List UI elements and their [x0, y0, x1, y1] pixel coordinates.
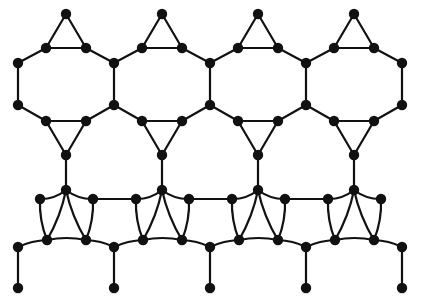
atom-quad-bottom-right-0	[81, 235, 91, 245]
atom-quad-shoulder-right-1	[184, 194, 194, 204]
atom-pendant-4	[397, 283, 407, 293]
atom-quad-bottom-left-3	[330, 235, 340, 245]
atom-tri-shoulder-left-3	[329, 116, 339, 126]
atom-tri-apex-2	[253, 150, 263, 160]
atom-tri-shoulder-right-3	[369, 116, 379, 126]
atom-quad-shoulder-right-3	[376, 194, 386, 204]
atom-cap-apex-3	[349, 9, 359, 19]
atom-pendant-0	[13, 283, 23, 293]
atom-tri-shoulder-left-2	[233, 116, 243, 126]
atom-terminal-1	[109, 242, 119, 252]
atom-quad-shoulder-left-0	[35, 194, 45, 204]
atom-cap-shoulder-right-0	[81, 43, 91, 53]
atom-quad-bottom-right-2	[273, 235, 283, 245]
atom-hex-lower-3	[301, 100, 311, 110]
atom-terminal-4	[397, 242, 407, 252]
atom-hex-upper-3	[301, 58, 311, 68]
atom-tri-shoulder-right-0	[81, 116, 91, 126]
atom-pendant-1	[109, 283, 119, 293]
atom-tri-apex-1	[157, 150, 167, 160]
atom-quad-shoulder-right-2	[280, 194, 290, 204]
atom-quad-bottom-right-3	[369, 235, 379, 245]
atom-cap-shoulder-left-3	[329, 43, 339, 53]
atom-quad-bottom-left-1	[138, 235, 148, 245]
atom-terminal-3	[301, 242, 311, 252]
atom-quad-top-1	[157, 185, 167, 195]
atom-cap-apex-0	[61, 9, 71, 19]
atom-hex-upper-0	[13, 58, 23, 68]
atom-terminal-2	[205, 242, 215, 252]
atom-tri-apex-3	[349, 150, 359, 160]
lattice-diagram: Molecular lattice network schematic	[0, 0, 423, 307]
atom-tri-shoulder-right-2	[273, 116, 283, 126]
atom-cap-shoulder-right-3	[369, 43, 379, 53]
atom-quad-bottom-left-2	[234, 235, 244, 245]
atom-hex-lower-2	[205, 100, 215, 110]
atom-hex-lower-0	[13, 100, 23, 110]
atom-cap-shoulder-left-2	[233, 43, 243, 53]
atom-tri-shoulder-left-1	[137, 116, 147, 126]
atom-tri-shoulder-left-0	[41, 116, 51, 126]
atom-cap-shoulder-left-1	[137, 43, 147, 53]
lattice-svg: Molecular lattice network schematic	[0, 0, 423, 307]
atom-quad-bottom-right-1	[177, 235, 187, 245]
atom-quad-shoulder-right-0	[88, 194, 98, 204]
atom-cap-apex-1	[157, 9, 167, 19]
atom-hex-lower-1	[109, 100, 119, 110]
atom-quad-shoulder-left-2	[227, 194, 237, 204]
atom-cap-shoulder-right-1	[177, 43, 187, 53]
atom-cap-apex-2	[253, 9, 263, 19]
atom-quad-shoulder-left-1	[131, 194, 141, 204]
atom-hex-lower-4	[397, 100, 407, 110]
atom-quad-bottom-left-0	[42, 235, 52, 245]
atom-hex-upper-1	[109, 58, 119, 68]
atom-terminal-0	[13, 242, 23, 252]
atom-pendant-2	[205, 283, 215, 293]
atom-quad-top-0	[61, 185, 71, 195]
atom-cap-shoulder-left-0	[41, 43, 51, 53]
atom-cap-shoulder-right-2	[273, 43, 283, 53]
atom-tri-apex-0	[61, 150, 71, 160]
atom-pendant-3	[301, 283, 311, 293]
atom-quad-shoulder-left-3	[323, 194, 333, 204]
atom-hex-upper-2	[205, 58, 215, 68]
atom-quad-top-3	[349, 185, 359, 195]
atom-quad-top-2	[253, 185, 263, 195]
atom-hex-upper-4	[397, 58, 407, 68]
atom-tri-shoulder-right-1	[177, 116, 187, 126]
